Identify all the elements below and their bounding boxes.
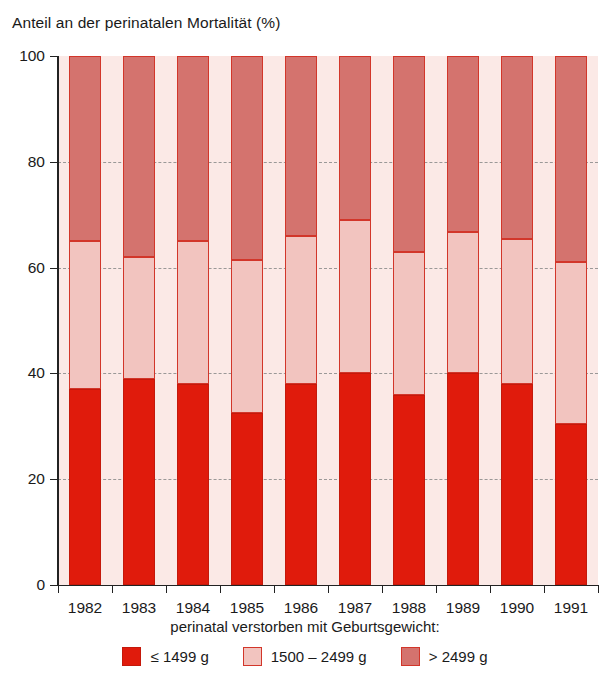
bar-segment-1991-1 [555, 262, 587, 423]
x-axis-label-1983: 1983 [122, 599, 156, 617]
legend-label-0: ≤ 1499 g [150, 648, 208, 665]
bar-segment-1987-2 [339, 56, 371, 220]
bar-segment-1982-1 [69, 241, 101, 389]
bar-segment-1983-2 [123, 56, 155, 257]
x-axis-label-1982: 1982 [68, 599, 102, 617]
x-tick-2 [166, 585, 167, 593]
x-axis-label-1984: 1984 [176, 599, 210, 617]
x-axis-line [57, 585, 598, 587]
bar-segment-1986-2 [285, 56, 317, 236]
y-axis-label-100: 100 [19, 47, 45, 65]
bar-segment-1985-0 [231, 413, 263, 585]
bar-segment-1985-1 [231, 260, 263, 413]
bar-segment-1983-1 [123, 257, 155, 379]
bar-segment-1989-1 [447, 232, 479, 373]
bar-1982 [69, 56, 101, 585]
y-axis-label-60: 60 [28, 259, 45, 277]
bar-segment-1989-2 [447, 56, 479, 232]
bar-segment-1990-1 [501, 239, 533, 384]
legend-label-2: > 2499 g [429, 648, 488, 665]
y-axis-line [57, 56, 59, 585]
y-axis-label-80: 80 [28, 153, 45, 171]
bar-segment-1986-0 [285, 384, 317, 585]
legend-item-1: 1500 – 2499 g [243, 647, 367, 666]
x-tick-10 [598, 585, 599, 593]
legend-caption: perinatal verstorben mit Geburtsgewicht: [0, 618, 610, 635]
bar-segment-1991-2 [555, 56, 587, 262]
bar-segment-1988-0 [393, 395, 425, 585]
legend-item-2: > 2499 g [401, 647, 488, 666]
x-tick-1 [112, 585, 113, 593]
x-tick-9 [544, 585, 545, 593]
x-tick-6 [382, 585, 383, 593]
x-axis-label-1986: 1986 [284, 599, 318, 617]
x-axis-label-1990: 1990 [500, 599, 534, 617]
y-axis-label-40: 40 [28, 364, 45, 382]
bar-1988 [393, 56, 425, 585]
legend-swatch-icon-0 [122, 647, 141, 666]
bar-1989 [447, 56, 479, 585]
x-axis-label-1989: 1989 [446, 599, 480, 617]
bar-segment-1987-1 [339, 220, 371, 373]
x-tick-5 [328, 585, 329, 593]
bar-segment-1988-1 [393, 252, 425, 395]
x-tick-4 [274, 585, 275, 593]
chart-title: Anteil an der perinatalen Mortalität (%) [12, 14, 281, 32]
x-axis-label-1987: 1987 [338, 599, 372, 617]
y-axis-label-20: 20 [28, 470, 45, 488]
legend-swatch-icon-2 [401, 647, 420, 666]
bar-segment-1987-0 [339, 373, 371, 585]
bar-segment-1984-0 [177, 384, 209, 585]
y-axis-label-0: 0 [36, 576, 45, 594]
bar-segment-1982-2 [69, 56, 101, 241]
legend-label-1: 1500 – 2499 g [271, 648, 367, 665]
bar-segment-1982-0 [69, 389, 101, 585]
bar-segment-1990-0 [501, 384, 533, 585]
bar-segment-1983-0 [123, 379, 155, 585]
x-axis-label-1991: 1991 [554, 599, 588, 617]
x-tick-0 [58, 585, 59, 593]
bar-segment-1984-2 [177, 56, 209, 241]
bar-segment-1986-1 [285, 236, 317, 384]
legend-swatch-icon-1 [243, 647, 262, 666]
bar-1984 [177, 56, 209, 585]
bar-segment-1984-1 [177, 241, 209, 384]
bar-segment-1991-0 [555, 424, 587, 585]
bar-segment-1989-0 [447, 373, 479, 585]
chart-root: Anteil an der perinatalen Mortalität (%)… [0, 0, 610, 698]
chart-legend: perinatal verstorben mit Geburtsgewicht:… [0, 618, 610, 666]
x-tick-8 [490, 585, 491, 593]
bar-1991 [555, 56, 587, 585]
plot-area: 020406080100 198219831984198519861987198… [58, 56, 598, 585]
bar-1986 [285, 56, 317, 585]
bar-segment-1990-2 [501, 56, 533, 239]
bar-1990 [501, 56, 533, 585]
bar-1987 [339, 56, 371, 585]
x-axis-label-1985: 1985 [230, 599, 264, 617]
bar-segment-1985-2 [231, 56, 263, 260]
x-tick-3 [220, 585, 221, 593]
bar-1985 [231, 56, 263, 585]
bar-segment-1988-2 [393, 56, 425, 252]
legend-items: ≤ 1499 g1500 – 2499 g> 2499 g [0, 647, 610, 666]
x-tick-7 [436, 585, 437, 593]
legend-item-0: ≤ 1499 g [122, 647, 208, 666]
x-axis-label-1988: 1988 [392, 599, 426, 617]
bar-1983 [123, 56, 155, 585]
